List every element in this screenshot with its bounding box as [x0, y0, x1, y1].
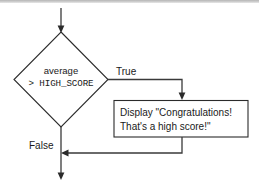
- decision-text-line2: > HIGH_SCORE: [29, 78, 95, 89]
- process-text-line2: That's a high score!": [120, 121, 211, 132]
- edge-merge: [61, 137, 182, 156]
- process-text-line1: Display "Congratulations!: [120, 107, 232, 118]
- true-branch-label: True: [116, 66, 137, 77]
- decision-text-line1: average: [44, 65, 78, 76]
- node-process: Display "Congratulations! That's a high …: [114, 101, 248, 138]
- false-branch-arrowhead-icon: [58, 173, 65, 181]
- edge-entry: [58, 8, 65, 33]
- false-branch-label: False: [29, 140, 54, 151]
- merge-line: [65, 137, 182, 153]
- node-decision: average > HIGH_SCORE: [14, 32, 108, 127]
- flowchart-canvas: average > HIGH_SCORE True Display "Congr…: [0, 0, 259, 188]
- merge-arrowhead-icon: [61, 150, 69, 157]
- true-branch-arrowhead-icon: [179, 93, 186, 101]
- true-branch-line: [108, 80, 182, 97]
- edge-false-branch: False: [29, 127, 64, 180]
- flowchart-svg: average > HIGH_SCORE True Display "Congr…: [0, 0, 259, 188]
- edge-true-branch: True: [108, 66, 185, 100]
